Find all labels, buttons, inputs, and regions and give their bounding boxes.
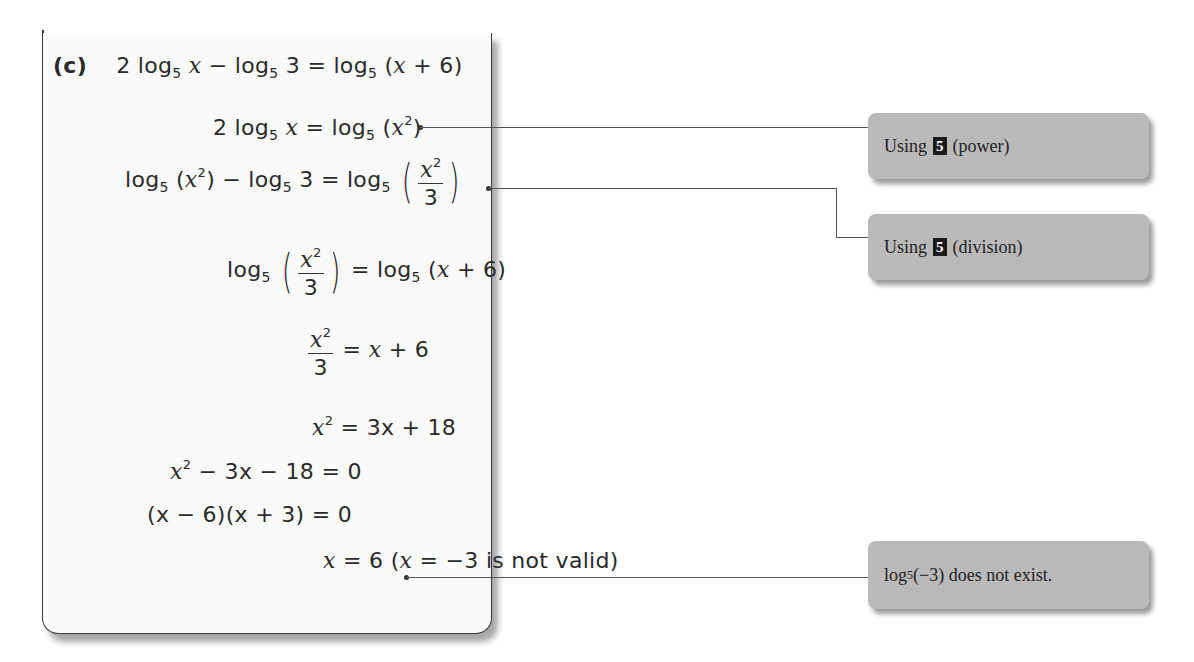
paren: ( — [176, 167, 185, 192]
op-equals: = — [344, 257, 377, 282]
callout-not-exist: log5 (−3) does not exist. — [868, 541, 1149, 609]
equation-step-3: log5 (x2) − log5 3 = log5 (x23) — [125, 150, 464, 212]
log-word: log — [332, 115, 366, 140]
op-minus: − — [215, 167, 248, 192]
big-paren: ) — [329, 248, 340, 294]
equation-step-5: x23 = x + 6 — [306, 320, 429, 382]
paren: ( — [428, 257, 437, 282]
connector-line-division-c — [836, 237, 868, 238]
exponent: 2 — [404, 113, 413, 128]
op-plus: + — [406, 53, 439, 78]
exponent: 2 — [313, 245, 322, 260]
exponent: 2 — [183, 457, 192, 472]
lhs-rest: − 3x − 18 — [199, 459, 315, 484]
var-x: x — [300, 247, 313, 272]
denominator: 3 — [298, 274, 323, 302]
paren: ( — [384, 53, 393, 78]
num-three: 3 — [299, 167, 313, 192]
log-word: log — [125, 167, 159, 192]
callout-division: Using5(division) — [868, 214, 1149, 280]
op-minus: − — [202, 53, 235, 78]
var-x: x — [369, 337, 382, 362]
log-word: log — [333, 53, 367, 78]
log-word: log — [138, 53, 172, 78]
connector-line-invalid — [406, 577, 868, 578]
callout-log: log — [884, 565, 907, 586]
var-x: x — [400, 548, 413, 573]
log-base: 5 — [261, 269, 270, 285]
var-x: x — [310, 327, 323, 352]
var-x: x — [312, 415, 325, 440]
equation-step-9: x = 6 (x = −3 is not valid) — [323, 548, 619, 573]
equation-step-7: x2 − 3x − 18 = 0 — [170, 457, 362, 484]
log-base: 5 — [381, 179, 390, 195]
equation-step-2: 2 log5 x = log5 (x2) — [213, 113, 422, 143]
fraction: x23 — [308, 320, 333, 382]
rhs: 0 — [347, 459, 361, 484]
big-paren: ( — [402, 158, 413, 204]
denominator: 3 — [308, 354, 333, 382]
op-equals: = — [335, 337, 368, 362]
exponent: 2 — [198, 165, 207, 180]
var-x: x — [393, 53, 406, 78]
log-word: log — [347, 167, 381, 192]
exponent: 2 — [325, 413, 334, 428]
paren: ) — [206, 167, 215, 192]
equation-step-6: x2 = 3x + 18 — [312, 413, 456, 440]
equation-step-8: (x − 6)(x + 3) = 0 — [147, 502, 352, 527]
num-three: 3 — [286, 53, 300, 78]
rhs: 3x + 18 — [367, 415, 457, 440]
log-base: 5 — [368, 65, 377, 81]
equation-step-4: log5 (x23) = log5 (x + 6) — [227, 240, 506, 302]
op-equals: = — [300, 53, 333, 78]
op-equals: = — [314, 459, 347, 484]
solution-value: 6 ( — [369, 548, 399, 573]
log-word: log — [235, 115, 269, 140]
coef: 2 — [116, 53, 130, 78]
var-x: x — [170, 459, 183, 484]
rule-number-badge: 5 — [933, 238, 947, 256]
var-x: x — [185, 167, 198, 192]
log-word: log — [377, 257, 411, 282]
var-x: x — [323, 548, 336, 573]
num-six: 6 — [415, 337, 429, 362]
callout-text: (division) — [953, 237, 1023, 258]
log-word: log — [227, 257, 261, 282]
op-plus: + — [381, 337, 414, 362]
log-base: 5 — [159, 179, 168, 195]
op-equals: = — [336, 548, 369, 573]
op-equals: = — [314, 167, 347, 192]
part-label: (c) — [53, 53, 87, 78]
equation-step-1: (c) 2 log5 x − log5 3 = log5 (x + 6) — [53, 53, 463, 81]
rule-number-badge: 5 — [933, 137, 947, 155]
var-x: x — [420, 157, 433, 182]
connector-line-power — [420, 127, 868, 128]
log-base: 5 — [412, 269, 421, 285]
log-base: 5 — [366, 127, 375, 143]
var-x: x — [189, 53, 202, 78]
fraction: x23 — [418, 150, 443, 212]
paren: ) — [454, 53, 463, 78]
callout-text: (power) — [953, 136, 1010, 157]
callout-text: Using — [884, 237, 927, 258]
log-base: 5 — [172, 65, 181, 81]
num-six: 6 — [439, 53, 453, 78]
exponent: 2 — [433, 155, 442, 170]
op-plus: + — [450, 257, 483, 282]
var-x: x — [286, 115, 299, 140]
paren: ) — [497, 257, 506, 282]
num-six: 6 — [483, 257, 497, 282]
rhs: 0 — [338, 502, 352, 527]
connector-line-division-a — [488, 188, 836, 189]
var-x: x — [437, 257, 450, 282]
big-paren: ) — [449, 158, 460, 204]
log-base: 5 — [269, 65, 278, 81]
connector-line-division-b — [836, 188, 837, 237]
callout-text: Using — [884, 136, 927, 157]
log-base: 5 — [269, 127, 278, 143]
log-base: 5 — [283, 179, 292, 195]
invalid-note: = −3 is not valid) — [412, 548, 618, 573]
big-paren: ( — [282, 248, 293, 294]
coef: 2 — [213, 115, 227, 140]
exponent: 2 — [323, 325, 332, 340]
